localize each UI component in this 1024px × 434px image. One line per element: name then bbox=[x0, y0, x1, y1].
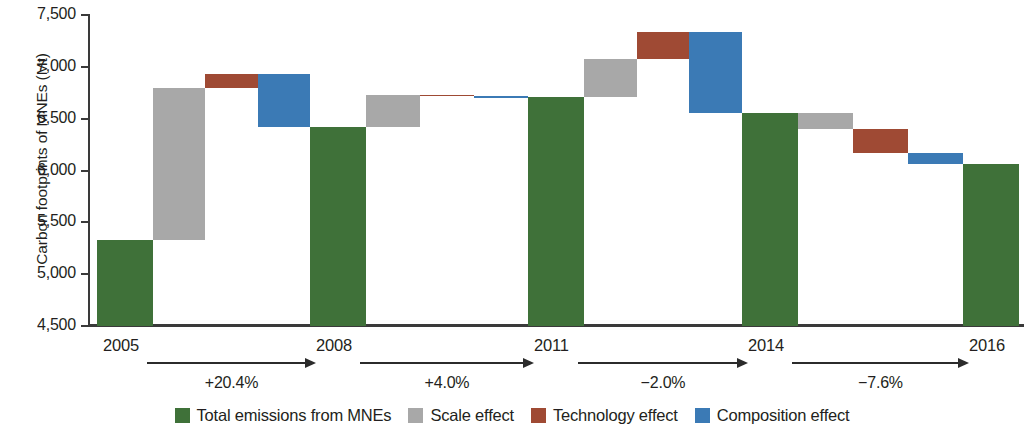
arrow-line bbox=[360, 362, 524, 364]
bar-scale-2008-2011 bbox=[366, 95, 420, 127]
legend-swatch-icon bbox=[408, 408, 423, 423]
legend-swatch-icon bbox=[695, 408, 710, 423]
arrow-line bbox=[792, 362, 959, 364]
arrow-head-icon bbox=[958, 358, 969, 368]
bar-total-2008 bbox=[310, 127, 366, 326]
bar-total-2016 bbox=[963, 164, 1019, 326]
bar-total-2005 bbox=[97, 240, 153, 326]
x-axis-label-2008: 2008 bbox=[316, 336, 352, 355]
x-axis-label-2016: 2016 bbox=[969, 336, 1005, 355]
y-axis-tick bbox=[81, 221, 90, 223]
legend-item-total[interactable]: Total emissions from MNEs bbox=[175, 406, 392, 425]
arrow-line bbox=[147, 362, 306, 364]
growth-arrow-2005-2008: +20.4% bbox=[147, 362, 316, 396]
growth-rate-label: +20.4% bbox=[147, 374, 316, 392]
growth-rate-label: −7.6% bbox=[792, 374, 969, 392]
arrow-head-icon bbox=[305, 358, 316, 368]
y-axis-tick-label: 6,500 bbox=[37, 109, 76, 127]
y-axis-tick bbox=[81, 118, 90, 120]
y-axis-tick-label: 5,000 bbox=[37, 264, 76, 282]
legend-label: Technology effect bbox=[553, 406, 678, 425]
growth-rate-label: +4.0% bbox=[360, 374, 534, 392]
bar-composition-2011-2014 bbox=[689, 32, 742, 113]
growth-rate-label: −2.0% bbox=[578, 374, 748, 392]
arrow-head-icon bbox=[523, 358, 534, 368]
plot-area bbox=[88, 15, 1024, 326]
legend-swatch-icon bbox=[531, 408, 546, 423]
growth-arrow-2014-2016: −7.6% bbox=[792, 362, 969, 396]
legend-label: Scale effect bbox=[430, 406, 514, 425]
arrow-head-icon bbox=[737, 358, 748, 368]
y-axis-tick bbox=[81, 14, 90, 16]
legend-label: Composition effect bbox=[717, 406, 850, 425]
bar-technology-2008-2011 bbox=[420, 95, 474, 97]
chart-legend: Total emissions from MNEsScale effectTec… bbox=[0, 406, 1024, 425]
y-axis-tick-label: 6,000 bbox=[37, 161, 76, 179]
bar-composition-2014-2016 bbox=[908, 153, 963, 164]
y-axis-tick-label: 5,500 bbox=[37, 212, 76, 230]
bar-technology-2005-2008 bbox=[205, 74, 257, 87]
bar-technology-2014-2016 bbox=[853, 129, 908, 154]
y-axis-tick-label: 7,000 bbox=[37, 57, 76, 75]
legend-item-scale[interactable]: Scale effect bbox=[408, 406, 514, 425]
bar-composition-2005-2008 bbox=[258, 74, 310, 127]
growth-arrow-2008-2011: +4.0% bbox=[360, 362, 534, 396]
x-axis-label-2014: 2014 bbox=[748, 336, 784, 355]
y-axis-tick bbox=[81, 325, 90, 327]
bar-composition-2008-2011 bbox=[474, 96, 528, 98]
bar-scale-2011-2014 bbox=[584, 59, 637, 97]
legend-label: Total emissions from MNEs bbox=[197, 406, 392, 425]
bar-scale-2005-2008 bbox=[153, 88, 205, 240]
bar-total-2011 bbox=[528, 97, 584, 326]
bar-technology-2011-2014 bbox=[637, 32, 690, 59]
y-axis-tick bbox=[81, 170, 90, 172]
legend-item-composition[interactable]: Composition effect bbox=[695, 406, 850, 425]
bar-total-2014 bbox=[742, 113, 798, 326]
x-axis-label-2005: 2005 bbox=[103, 336, 139, 355]
y-axis-tick-labels: 7,5007,0006,5006,0005,5005,0004,500 bbox=[0, 15, 76, 326]
x-axis-tick-labels: 20052008201120142016 bbox=[0, 336, 1024, 358]
legend-item-technology[interactable]: Technology effect bbox=[531, 406, 678, 425]
y-axis-tick bbox=[81, 66, 90, 68]
y-axis-tick-label: 4,500 bbox=[37, 316, 76, 334]
legend-swatch-icon bbox=[175, 408, 190, 423]
x-axis-label-2011: 2011 bbox=[534, 336, 569, 355]
waterfall-chart-figure: Carbon footprints of MNEs (Mt) 7,5007,00… bbox=[0, 0, 1024, 434]
y-axis-tick bbox=[81, 273, 90, 275]
growth-arrow-2011-2014: −2.0% bbox=[578, 362, 748, 396]
bar-scale-2014-2016 bbox=[798, 113, 853, 129]
y-axis-tick-label: 7,500 bbox=[37, 5, 76, 23]
arrow-line bbox=[578, 362, 738, 364]
